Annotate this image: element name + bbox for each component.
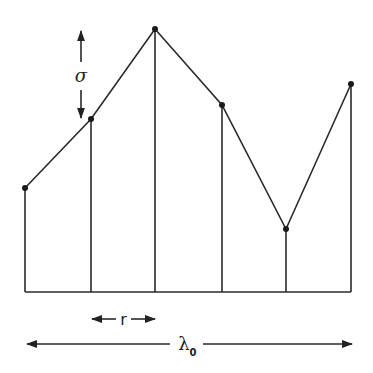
sigma-dimension: σ <box>75 31 88 118</box>
profile-line <box>25 29 351 229</box>
lambda-label: λ <box>178 333 189 354</box>
r-label: r <box>120 310 127 329</box>
point-4 <box>219 102 225 108</box>
data-points <box>22 26 354 232</box>
sigma-label: σ <box>75 65 88 86</box>
r-dimension: r <box>92 310 155 329</box>
point-3 <box>152 26 158 32</box>
point-2 <box>88 116 94 122</box>
point-1 <box>22 185 28 191</box>
profile-diagram: σ r λ 0 <box>0 0 373 373</box>
lambda-subscript: 0 <box>190 347 197 358</box>
point-5 <box>283 226 289 232</box>
point-6 <box>348 81 354 87</box>
lambda-dimension: λ 0 <box>27 333 352 358</box>
